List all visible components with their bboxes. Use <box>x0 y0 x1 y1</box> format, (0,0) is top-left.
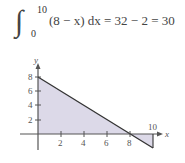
x-tick-6: 6 <box>104 138 109 148</box>
y-tick-2: 2 <box>28 115 33 125</box>
area-chart: 2 4 6 8 10 2 4 6 8 x y <box>0 0 185 163</box>
x-tick-2: 2 <box>58 138 63 148</box>
y-tick-6: 6 <box>28 86 33 96</box>
y-axis-label: y <box>33 55 38 65</box>
x-axis-label: x <box>164 129 169 139</box>
y-tick-4: 4 <box>28 100 33 110</box>
x-tick-4: 4 <box>81 138 86 148</box>
y-tick-8: 8 <box>28 72 33 82</box>
x-tick-8: 8 <box>127 138 132 148</box>
x-axis-arrow-icon <box>157 132 163 137</box>
x-tick-10: 10 <box>148 122 158 132</box>
